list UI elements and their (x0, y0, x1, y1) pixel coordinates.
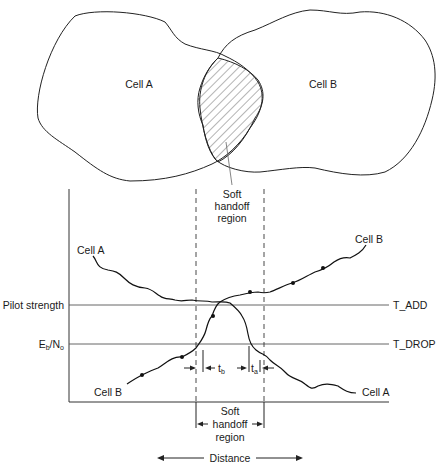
cell-a-label: Cell A (125, 78, 152, 90)
cell-b-data-point (248, 290, 252, 294)
t-add-label: T_ADD (393, 299, 428, 311)
cell-a-left-label: Cell A (77, 244, 104, 256)
region-label-line1: Soft (221, 405, 240, 417)
overlap-label-line3: region (217, 212, 246, 224)
pilot-strength-label: Pilot strength (3, 299, 64, 311)
cell-a-right-label: Cell A (362, 386, 389, 398)
pilot-strength-graph: T_ADD T_DROP Pilot strength Eb/No Cell A… (3, 189, 436, 464)
cell-b-right-label: Cell B (355, 233, 383, 245)
region-label-line2: handoff (213, 418, 248, 430)
t-a-label: ta (251, 362, 258, 375)
region-label-line3: region (215, 431, 244, 443)
timer-t-b: tb ta (184, 346, 274, 375)
t-b-label: tb (218, 362, 225, 375)
soft-handoff-region-marker: Soft handoff region (196, 402, 264, 443)
distance-axis-label: Distance (157, 452, 303, 464)
t-drop-label: T_DROP (393, 338, 436, 350)
overlap-label-line2: handoff (215, 200, 250, 212)
arrow-right-icon (296, 455, 303, 461)
eb-no-label: Eb/No (39, 338, 64, 351)
overlap-hatched-region (198, 58, 263, 162)
distance-label: Distance (210, 452, 251, 464)
cell-b-left-label: Cell B (94, 386, 122, 398)
overlap-label-line1: Soft (223, 188, 242, 200)
cell-coverage-diagram: Cell A Cell B Soft handoff region (37, 10, 435, 224)
cell-b-data-point (140, 373, 144, 377)
soft-handoff-diagram: Cell A Cell B Soft handoff region T_ADD … (0, 0, 445, 471)
cell-b-pilot-curve (127, 245, 366, 384)
cell-b-label: Cell B (309, 78, 337, 90)
cell-b-data-point (211, 314, 215, 318)
cell-b-data-point (180, 355, 184, 359)
cell-b-data-point (321, 266, 325, 270)
cell-b-data-point (291, 281, 295, 285)
